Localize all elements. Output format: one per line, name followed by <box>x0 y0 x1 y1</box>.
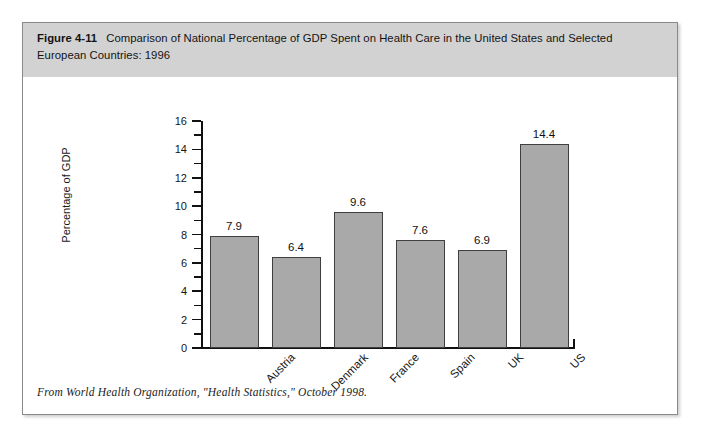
y-tick-label: 6 <box>143 257 187 269</box>
figure-number: Figure 4-11 <box>37 32 97 44</box>
x-label-us: US <box>567 351 587 371</box>
bar-slot: 7.6 <box>396 121 445 348</box>
y-tick-minor <box>194 134 201 135</box>
bar-spain[interactable] <box>396 240 445 348</box>
figure-caption: Figure 4-11Comparison of National Percen… <box>37 30 663 63</box>
x-label-uk: UK <box>505 351 525 371</box>
bar-slot: 6.9 <box>458 121 507 348</box>
y-tick-major <box>192 234 201 236</box>
bar-value-label: 7.9 <box>210 220 259 232</box>
bar-austria[interactable] <box>210 236 259 348</box>
y-tick-label: 10 <box>143 200 187 212</box>
x-label-spain: Spain <box>447 351 476 380</box>
bar-value-label: 6.9 <box>458 234 507 246</box>
y-tick-minor <box>194 333 201 334</box>
bar-value-label: 14.4 <box>520 128 569 140</box>
y-tick-major <box>192 319 201 321</box>
y-tick-label: 8 <box>143 229 187 241</box>
y-tick-major <box>192 262 201 264</box>
y-tick-minor <box>194 276 201 277</box>
bar-slot: 6.4 <box>272 121 321 348</box>
x-label-austria: Austria <box>263 351 297 385</box>
figure-caption-text: Comparison of National Percentage of GDP… <box>37 32 613 61</box>
y-tick-label: 0 <box>143 342 187 354</box>
y-tick-minor <box>194 163 201 164</box>
y-tick-major <box>192 149 201 151</box>
chart-plot-area: Percentage of GDP 0246810121416 7.96.49.… <box>23 77 677 377</box>
y-tick-label: 12 <box>143 172 187 184</box>
y-tick-major <box>192 177 201 179</box>
y-tick-label: 2 <box>143 314 187 326</box>
source-note: From World Health Organization, "Health … <box>37 386 367 398</box>
y-tick-label: 16 <box>143 115 187 127</box>
y-axis-title: Percentage of GDP <box>60 115 72 275</box>
x-axis-category-labels: AustriaDenmarkFranceSpainUKUS <box>203 351 575 411</box>
bar-denmark[interactable] <box>272 257 321 348</box>
figure-frame: Figure 4-11Comparison of National Percen… <box>22 22 678 415</box>
y-axis-tick-labels: 0246810121416 <box>137 77 187 377</box>
y-tick-minor <box>194 305 201 306</box>
bar-france[interactable] <box>334 212 383 348</box>
bars-layer: 7.96.49.67.66.914.4 <box>203 121 575 348</box>
y-tick-major <box>192 290 201 292</box>
y-tick-major <box>192 120 201 122</box>
figure-header-band: Figure 4-11Comparison of National Percen… <box>23 23 677 77</box>
y-tick-major <box>192 347 201 349</box>
x-label-france: France <box>387 351 421 385</box>
bar-slot: 7.9 <box>210 121 259 348</box>
bar-value-label: 9.6 <box>334 196 383 208</box>
bar-value-label: 6.4 <box>272 241 321 253</box>
bar-us[interactable] <box>520 144 569 348</box>
y-tick-minor <box>194 191 201 192</box>
bar-value-label: 7.6 <box>396 224 445 236</box>
bar-uk[interactable] <box>458 250 507 348</box>
bar-slot: 9.6 <box>334 121 383 348</box>
y-tick-minor <box>194 248 201 249</box>
y-tick-major <box>192 205 201 207</box>
y-tick-label: 4 <box>143 285 187 297</box>
bar-slot: 14.4 <box>520 121 569 348</box>
y-tick-label: 14 <box>143 143 187 155</box>
y-tick-minor <box>194 220 201 221</box>
